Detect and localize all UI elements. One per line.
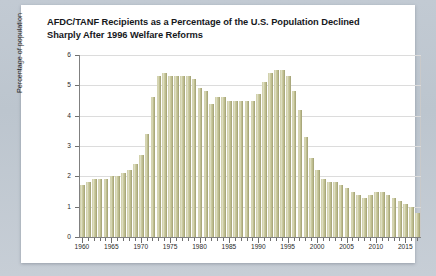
chart-title: AFDC/TANF Recipients as a Percentage of … xyxy=(47,16,407,42)
x-tick-1974 xyxy=(164,238,165,241)
bar-1968 xyxy=(127,170,132,237)
bar-2006 xyxy=(351,192,356,238)
x-axis: 1960196519701975198019851990199520002005… xyxy=(79,238,421,260)
x-tick-1994 xyxy=(282,238,283,241)
x-tick-2003 xyxy=(335,238,336,241)
x-tick-2013 xyxy=(394,238,395,241)
bar-2001 xyxy=(321,179,326,237)
x-tick-1967 xyxy=(123,238,124,241)
x-tick-1961 xyxy=(88,238,89,241)
bar-1985 xyxy=(227,101,232,238)
bar-1962 xyxy=(92,179,97,237)
y-tick-label-1: 1 xyxy=(49,203,71,210)
bar-1998 xyxy=(304,137,309,237)
x-tick-1999 xyxy=(311,238,312,241)
x-tick-1975 xyxy=(170,238,171,243)
x-tick-2007 xyxy=(358,238,359,241)
x-tick-1993 xyxy=(276,238,277,241)
x-tick-1970 xyxy=(141,238,142,243)
x-tick-2001 xyxy=(323,238,324,241)
x-tick-label-1970: 1970 xyxy=(127,243,155,250)
x-tick-label-2005: 2005 xyxy=(333,243,361,250)
x-tick-1973 xyxy=(158,238,159,241)
x-tick-1979 xyxy=(194,238,195,241)
bar-1978 xyxy=(186,76,191,237)
x-tick-1988 xyxy=(247,238,248,241)
x-tick-1969 xyxy=(135,238,136,241)
x-tick-2004 xyxy=(341,238,342,241)
x-tick-label-1990: 1990 xyxy=(244,243,272,250)
bar-1986 xyxy=(233,101,238,238)
bar-1979 xyxy=(192,79,197,237)
bar-1967 xyxy=(121,173,126,237)
bar-2003 xyxy=(333,182,338,237)
bar-2015 xyxy=(403,204,408,237)
x-tick-1984 xyxy=(223,238,224,241)
x-tick-1983 xyxy=(217,238,218,241)
bar-1999 xyxy=(309,158,314,237)
bar-2017 xyxy=(415,213,420,237)
y-tick-label-5: 5 xyxy=(49,81,71,88)
x-tick-1976 xyxy=(176,238,177,241)
x-tick-1963 xyxy=(100,238,101,241)
x-tick-1972 xyxy=(152,238,153,241)
bar-1977 xyxy=(180,76,185,237)
bar-2005 xyxy=(345,188,350,237)
bar-1984 xyxy=(221,97,226,237)
y-tick-label-4: 4 xyxy=(49,112,71,119)
x-tick-1986 xyxy=(235,238,236,241)
bar-series xyxy=(79,55,420,237)
chart-title-line-1: AFDC/TANF Recipients as a Percentage of … xyxy=(47,16,407,29)
bar-1976 xyxy=(174,76,179,237)
bar-1987 xyxy=(239,101,244,238)
bar-1975 xyxy=(168,76,173,237)
bar-2013 xyxy=(392,198,397,237)
bar-1992 xyxy=(268,73,273,237)
x-tick-2012 xyxy=(388,238,389,241)
bar-2012 xyxy=(386,195,391,237)
bar-2014 xyxy=(398,201,403,237)
bar-1990 xyxy=(256,94,261,237)
x-tick-1987 xyxy=(241,238,242,241)
bar-1960 xyxy=(80,185,85,237)
bar-1961 xyxy=(86,182,91,237)
chart-title-line-2: Sharply After 1996 Welfare Reforms xyxy=(47,29,407,42)
x-tick-1985 xyxy=(229,238,230,243)
x-tick-1965 xyxy=(111,238,112,243)
bar-1972 xyxy=(151,97,156,237)
bar-2010 xyxy=(374,192,379,238)
bar-1981 xyxy=(204,91,209,237)
x-tick-1991 xyxy=(264,238,265,241)
x-tick-1980 xyxy=(200,238,201,243)
y-tick-label-3: 3 xyxy=(49,142,71,149)
x-tick-label-1995: 1995 xyxy=(274,243,302,250)
x-tick-1997 xyxy=(299,238,300,241)
x-tick-1992 xyxy=(270,238,271,241)
x-tick-1978 xyxy=(188,238,189,241)
x-tick-1964 xyxy=(105,238,106,241)
bar-2007 xyxy=(356,195,361,237)
y-tick-label-0: 0 xyxy=(49,233,71,240)
x-tick-1995 xyxy=(288,238,289,243)
chart-card: AFDC/TANF Recipients as a Percentage of … xyxy=(21,5,415,263)
bar-1965 xyxy=(110,176,115,237)
x-tick-1971 xyxy=(147,238,148,241)
bar-1974 xyxy=(162,73,167,237)
x-tick-1990 xyxy=(258,238,259,243)
x-tick-2016 xyxy=(411,238,412,241)
bar-1997 xyxy=(298,110,303,237)
bar-1970 xyxy=(139,155,144,237)
bar-1995 xyxy=(286,76,291,237)
x-tick-label-2015: 2015 xyxy=(391,243,419,250)
bar-2002 xyxy=(327,182,332,237)
x-tick-2014 xyxy=(399,238,400,241)
x-tick-2009 xyxy=(370,238,371,241)
bar-1989 xyxy=(251,101,256,238)
x-tick-label-2010: 2010 xyxy=(362,243,390,250)
x-tick-2006 xyxy=(352,238,353,241)
x-tick-1966 xyxy=(117,238,118,241)
x-tick-label-1965: 1965 xyxy=(97,243,125,250)
bar-2011 xyxy=(380,192,385,238)
bar-1964 xyxy=(104,179,109,237)
page-background: AFDC/TANF Recipients as a Percentage of … xyxy=(0,0,436,276)
